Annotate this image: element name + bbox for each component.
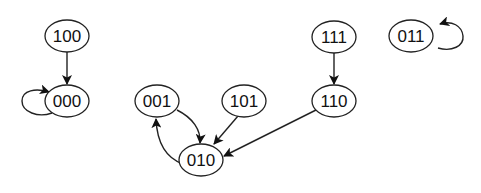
node-000: 000	[45, 85, 89, 117]
edge-011-self-loop	[438, 23, 463, 50]
node-label: 011	[397, 27, 424, 46]
edge-001-to-010	[177, 110, 200, 143]
node-100: 100	[45, 20, 89, 52]
node-111: 111	[312, 21, 356, 53]
edge-101-to-010	[214, 116, 238, 144]
node-label: 001	[143, 92, 171, 111]
node-label: 111	[321, 28, 347, 47]
node-001: 001	[135, 85, 179, 117]
node-label: 110	[320, 92, 347, 111]
node-label: 100	[53, 27, 81, 46]
node-011: 011	[389, 20, 433, 52]
node-label: 101	[230, 92, 258, 111]
node-010: 010	[179, 144, 223, 176]
node-label: 010	[187, 151, 215, 170]
node-110: 110	[312, 85, 356, 117]
node-label: 000	[53, 92, 81, 111]
state-graph: 100 000 001 101 110 111 011 010	[0, 0, 481, 193]
node-101: 101	[222, 85, 266, 117]
